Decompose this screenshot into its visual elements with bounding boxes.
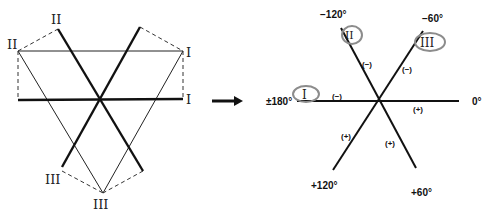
dashed-connector-lead-II [18, 29, 58, 51]
hexaxial-reference-system: I II III −120° −60° ±180° 0° +120° +60° … [266, 9, 482, 198]
angle-label-plus-minus-180: ±180° [266, 96, 292, 107]
einthoven-triangle-diagram: II II I I III III [7, 12, 191, 212]
angle-label-minus-120: −120° [320, 9, 347, 20]
label-lead-III: III [420, 36, 434, 50]
arrow-head-icon [234, 96, 243, 106]
dashed-connector-lead-III-top [140, 27, 183, 51]
angle-label-plus-60: +60° [411, 187, 432, 198]
polarity-lead-I-positive: (+) [413, 105, 423, 114]
circled-lead-II: II [342, 26, 362, 44]
label-lead-III-bottom: III [93, 197, 108, 212]
angle-label-plus-120: +120° [311, 180, 338, 191]
hexaxial-diagram: II II I I III III I II III −120° −60° ±1… [0, 0, 488, 216]
transform-arrow [212, 96, 243, 106]
circled-lead-III: III [415, 33, 445, 51]
polarity-lead-I-negative: (−) [332, 92, 342, 101]
label-lead-I: I [302, 88, 307, 102]
polarity-lead-III-positive: (+) [341, 132, 351, 141]
label-lead-III-bottom-left: III [45, 172, 60, 187]
polarity-lead-II-negative: (−) [362, 60, 372, 69]
polarity-lead-II-positive: (+) [385, 139, 395, 148]
polarity-lead-III-negative: (−) [402, 65, 412, 74]
label-lead-I-top: I [186, 45, 191, 60]
angle-label-minus-60: −60° [422, 13, 443, 24]
label-lead-II: II [345, 29, 354, 42]
label-lead-I-bottom: I [186, 92, 191, 107]
circled-lead-I: I [293, 86, 319, 102]
label-lead-II-top: II [51, 12, 61, 27]
angle-label-zero: 0° [472, 96, 482, 107]
triangle-left-edge [18, 51, 103, 193]
label-lead-II-top-left: II [7, 37, 17, 52]
